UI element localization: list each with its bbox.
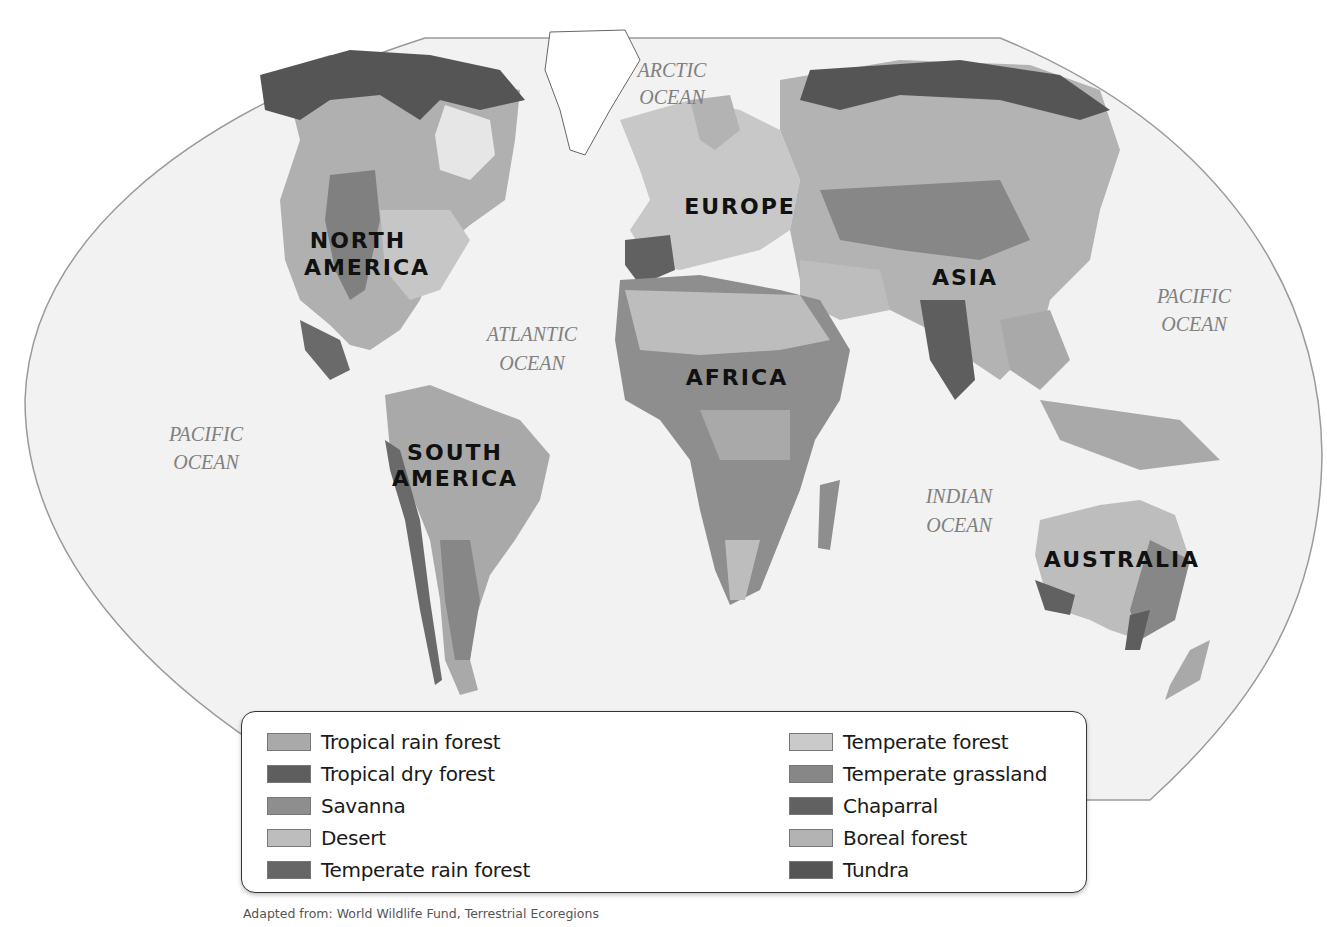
label-pacific-ocean-west-1: PACIFIC [168, 423, 244, 445]
legend-item-tropical-rain-forest: Tropical rain forest [267, 726, 530, 758]
swatch-chaparral [789, 797, 833, 815]
swatch-tropical-rain-forest [267, 733, 311, 751]
label-south-america-2: AMERICA [392, 466, 518, 491]
label-north-america-2: AMERICA [304, 255, 430, 280]
swatch-temperate-rain-forest [267, 861, 311, 879]
legend-label: Temperate grassland [843, 762, 1047, 786]
legend-item-boreal-forest: Boreal forest [789, 822, 1047, 854]
label-atlantic-ocean-1: ATLANTIC [485, 323, 578, 345]
label-pacific-ocean-east-2: OCEAN [1161, 313, 1228, 335]
label-africa: AFRICA [686, 365, 788, 390]
legend-item-desert: Desert [267, 822, 530, 854]
legend-item-chaparral: Chaparral [789, 790, 1047, 822]
legend-label: Temperate rain forest [321, 858, 530, 882]
swatch-temperate-grassland [789, 765, 833, 783]
legend-label: Tropical dry forest [321, 762, 495, 786]
swatch-temperate-forest [789, 733, 833, 751]
swatch-savanna [267, 797, 311, 815]
legend-label: Tundra [843, 858, 909, 882]
label-south-america-1: SOUTH [407, 440, 503, 465]
legend-item-tundra: Tundra [789, 854, 1047, 886]
swatch-boreal-forest [789, 829, 833, 847]
label-indian-ocean-1: INDIAN [925, 485, 994, 507]
label-north-america-1: NORTH [310, 228, 407, 253]
legend-item-temperate-forest: Temperate forest [789, 726, 1047, 758]
label-arctic-ocean-2: OCEAN [639, 86, 706, 108]
legend-item-temperate-rain-forest: Temperate rain forest [267, 854, 530, 886]
legend-item-temperate-grassland: Temperate grassland [789, 758, 1047, 790]
label-asia: ASIA [932, 265, 998, 290]
legend-label: Temperate forest [843, 730, 1008, 754]
legend-label: Tropical rain forest [321, 730, 500, 754]
source-credit: Adapted from: World Wildlife Fund, Terre… [243, 906, 599, 921]
swatch-tundra [789, 861, 833, 879]
legend-label: Boreal forest [843, 826, 967, 850]
label-australia: AUSTRALIA [1044, 547, 1200, 572]
swatch-desert [267, 829, 311, 847]
label-pacific-ocean-west-2: OCEAN [173, 451, 240, 473]
legend-label: Chaparral [843, 794, 938, 818]
label-indian-ocean-2: OCEAN [926, 514, 993, 536]
label-europe: EUROPE [684, 194, 796, 219]
legend-column-left: Tropical rain forest Tropical dry forest… [267, 726, 530, 886]
legend-label: Savanna [321, 794, 406, 818]
label-atlantic-ocean-2: OCEAN [499, 352, 566, 374]
label-arctic-ocean-1: ARCTIC [636, 59, 708, 81]
biome-legend: Tropical rain forest Tropical dry forest… [241, 711, 1087, 893]
legend-item-tropical-dry-forest: Tropical dry forest [267, 758, 530, 790]
swatch-tropical-dry-forest [267, 765, 311, 783]
label-pacific-ocean-east-1: PACIFIC [1156, 285, 1232, 307]
legend-label: Desert [321, 826, 386, 850]
legend-column-right: Temperate forest Temperate grassland Cha… [789, 726, 1047, 886]
legend-item-savanna: Savanna [267, 790, 530, 822]
